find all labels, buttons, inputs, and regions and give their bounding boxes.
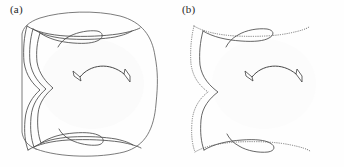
panel-b: (b) (172, 0, 344, 167)
background-wash (40, 39, 144, 129)
panel-b-plot (172, 0, 344, 167)
panel-a: (a) (0, 0, 172, 167)
figure-container: (a) (b) (0, 0, 344, 167)
background-wash (212, 39, 316, 129)
panel-a-plot (0, 0, 172, 167)
